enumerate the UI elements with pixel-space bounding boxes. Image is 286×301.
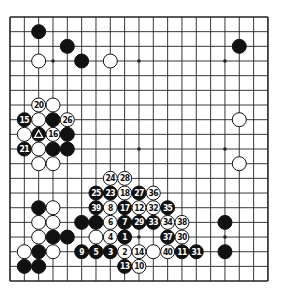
black-stone-39: 39 [89, 201, 103, 215]
move-number: 28 [120, 173, 130, 183]
move-number: 5 [94, 247, 99, 257]
white-stone-32: 32 [146, 201, 160, 215]
stone-disc [232, 113, 246, 127]
move-number: 34 [163, 217, 173, 227]
white-stone [32, 54, 46, 68]
black-stone-1: 1 [118, 230, 132, 244]
black-stone-35: 35 [161, 201, 175, 215]
move-number: 23 [106, 188, 116, 198]
black-stone-27: 27 [132, 186, 146, 200]
move-number: 17 [120, 203, 130, 213]
stone-disc [60, 230, 74, 244]
stone-disc [32, 142, 46, 156]
black-stone [218, 245, 232, 259]
black-stone-31: 31 [189, 245, 203, 259]
white-stone [46, 157, 60, 171]
move-number: 4 [108, 232, 113, 242]
stone-disc [89, 215, 103, 229]
white-stone-10: 10 [132, 259, 146, 273]
white-stone [32, 215, 46, 229]
move-number: 36 [149, 188, 159, 198]
stone-disc [46, 201, 60, 215]
stone-disc [32, 113, 46, 127]
move-number: 40 [163, 247, 173, 257]
black-stone [46, 142, 60, 156]
black-stone-25: 25 [89, 186, 103, 200]
black-stone [218, 215, 232, 229]
black-stone [32, 201, 46, 215]
white-stone [32, 157, 46, 171]
black-stone-11: 11 [175, 245, 189, 259]
black-stone [32, 259, 46, 273]
stone-disc [46, 113, 60, 127]
black-stone [32, 245, 46, 259]
white-stone [103, 54, 117, 68]
stone-disc [32, 259, 46, 273]
stone-disc [32, 245, 46, 259]
stone-disc [75, 215, 89, 229]
black-stone [60, 39, 74, 53]
stone-disc [46, 142, 60, 156]
white-stone-36: 36 [146, 186, 160, 200]
white-stone-38: 38 [175, 215, 189, 229]
black-stone [60, 142, 74, 156]
white-stone-16: 16 [46, 127, 60, 141]
stone-disc [32, 230, 46, 244]
stone-disc [32, 54, 46, 68]
move-number: 15 [20, 115, 30, 125]
white-stone-28: 28 [118, 171, 132, 185]
white-stone-14: 14 [132, 245, 146, 259]
stone-disc [232, 39, 246, 53]
white-stone [17, 245, 31, 259]
star-point [137, 235, 141, 239]
black-stone-29: 29 [132, 215, 146, 229]
move-number: 18 [120, 188, 130, 198]
black-stone-23: 23 [103, 186, 117, 200]
black-stone [32, 25, 46, 39]
move-number: 3 [108, 247, 113, 257]
stone-disc [75, 54, 89, 68]
black-stone-17: 17 [118, 201, 132, 215]
stone-disc [46, 98, 60, 112]
move-number: 24 [106, 173, 116, 183]
black-stone-5: 5 [89, 245, 103, 259]
white-stone [46, 245, 60, 259]
black-stone [60, 230, 74, 244]
move-number: 26 [63, 115, 73, 125]
move-number: 6 [108, 217, 113, 227]
star-point [223, 147, 227, 151]
white-stone [32, 142, 46, 156]
white-stone [232, 157, 246, 171]
white-stone-30: 30 [175, 230, 189, 244]
white-stone [89, 230, 103, 244]
stone-disc [46, 245, 60, 259]
move-number: 1 [122, 232, 127, 242]
stone-disc [218, 245, 232, 259]
white-stone [46, 98, 60, 112]
stone-disc [46, 230, 60, 244]
move-number: 32 [149, 203, 159, 213]
move-number: 27 [134, 188, 144, 198]
white-stone [32, 113, 46, 127]
black-stone-15: 15 [17, 113, 31, 127]
move-number: 30 [177, 232, 187, 242]
move-number: 16 [48, 129, 58, 139]
move-number: 13 [120, 261, 130, 271]
move-number: 12 [134, 203, 144, 213]
stone-disc [60, 142, 74, 156]
star-point [51, 59, 55, 63]
white-stone-6: 6 [103, 215, 117, 229]
star-point [223, 235, 227, 239]
stone-disc [32, 201, 46, 215]
white-stone-20: 20 [32, 98, 46, 112]
move-number: 37 [163, 232, 173, 242]
black-stone [60, 127, 74, 141]
white-stone-26: 26 [60, 113, 74, 127]
stone-disc [32, 157, 46, 171]
black-stone [75, 54, 89, 68]
move-number: 29 [134, 217, 144, 227]
white-stone [46, 215, 60, 229]
white-stone [146, 245, 160, 259]
black-stone-9: 9 [75, 245, 89, 259]
stone-disc [60, 127, 74, 141]
